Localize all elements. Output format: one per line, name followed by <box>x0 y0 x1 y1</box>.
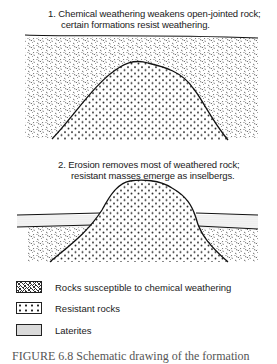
legend-label: Resistant rocks <box>55 303 120 314</box>
resistant-dot-pattern-swatch-icon <box>16 302 42 314</box>
figure-caption: FIGURE 6.8 Schematic drawing of the form… <box>12 349 250 364</box>
weathering-pattern-swatch-icon <box>16 281 42 293</box>
legend-item-weathering: Rocks susceptible to chemical weathering <box>16 281 231 293</box>
panel-1-caption: 1. Chemical weathering weakens open-join… <box>48 8 261 30</box>
panel-1-caption-line-1: 1. Chemical weathering weakens open-join… <box>48 8 261 19</box>
panel-1-caption-line-2: certain formations resist weathering. <box>48 19 261 30</box>
laterite-stipple-pattern-swatch-icon <box>16 324 42 336</box>
legend-label: Rocks susceptible to chemical weathering <box>55 282 231 293</box>
panel-2-caption: 2. Erosion removes most of weathered roc… <box>58 159 240 181</box>
legend-item-laterites: Laterites <box>16 324 91 336</box>
panel-2-caption-line-2: resistant masses emerge as inselbergs. <box>58 170 240 181</box>
panel-2-caption-line-1: 2. Erosion removes most of weathered roc… <box>58 159 240 170</box>
legend-item-resistant: Resistant rocks <box>16 302 120 314</box>
panel-2-cross-section <box>17 180 258 262</box>
legend-label: Laterites <box>55 325 91 336</box>
panel-1-cross-section <box>25 35 258 140</box>
